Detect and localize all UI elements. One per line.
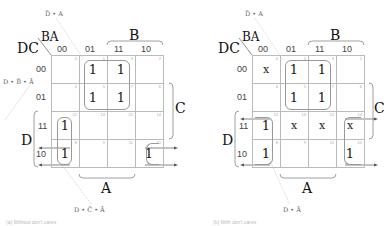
- group-loop-right-column: [344, 117, 361, 165]
- row-header: 00: [36, 64, 46, 74]
- term-bottom: D • Ā: [283, 206, 301, 214]
- kmap-cell: 11: [107, 139, 135, 167]
- var-label-B: B: [330, 27, 340, 43]
- kmap-cell: 9: [79, 139, 107, 167]
- col-header: 10: [141, 44, 151, 54]
- kmap-cell: 9: [280, 139, 308, 167]
- kmap-cell: 0: [51, 55, 79, 83]
- var-label-A: A: [101, 180, 111, 196]
- col-header: 10: [342, 44, 352, 54]
- kmap-left: D̄ • A DC BA B C D A 00 01 11 10 00 0: [0, 0, 195, 226]
- group-loop-left-column: [255, 117, 273, 165]
- col-header: 11: [315, 44, 324, 54]
- row-header: 11: [38, 121, 47, 131]
- kmap-cell: 15: [107, 111, 135, 139]
- row-header: 01: [237, 92, 247, 102]
- group-loop-center: [285, 60, 331, 110]
- kmap-cell: 11: [308, 139, 336, 167]
- col-header: 11: [114, 44, 123, 54]
- kmap-cell: 2: [135, 55, 163, 83]
- kmap-cell: 13x: [280, 111, 308, 139]
- col-vars-label: BA: [242, 30, 259, 44]
- row-header: 01: [36, 92, 46, 102]
- row-header: 10: [237, 149, 247, 159]
- kmap-cell: 15x: [308, 111, 336, 139]
- var-label-D: D: [21, 132, 32, 148]
- var-label-A: A: [302, 180, 312, 196]
- var-label-D: D: [222, 132, 233, 148]
- row-header: 00: [237, 64, 247, 74]
- col-header: 00: [57, 44, 67, 54]
- kmap-cell: 0x: [252, 55, 280, 83]
- row-header: 11: [239, 121, 248, 131]
- col-header: 01: [85, 44, 95, 54]
- col-header: 01: [286, 44, 296, 54]
- caption: (a) Without don't cares: [6, 219, 56, 225]
- kmap-cell: 6: [336, 83, 364, 111]
- group-loop-left-column: [57, 117, 72, 165]
- var-label-C: C: [374, 100, 385, 116]
- term-left: D • B̄ • Ā: [3, 78, 34, 86]
- var-label-C: C: [175, 100, 186, 116]
- group-loop-center: [84, 60, 130, 110]
- col-vars-label: BA: [41, 30, 58, 44]
- caption: (b) With don't cares: [213, 219, 256, 225]
- group-loop-right-edge: [146, 143, 159, 165]
- row-vars-label: DC: [17, 40, 39, 56]
- term-bottom: D • C̄ • Ā: [74, 206, 105, 214]
- kmap-right: D̄ • A DC BA B C D A 00 01 11 10 00 01 1…: [195, 0, 389, 226]
- var-label-B: B: [129, 27, 139, 43]
- kmap-cell: 6: [135, 83, 163, 111]
- kmap-cell: 14: [135, 111, 163, 139]
- kmap-cell: 2: [336, 55, 364, 83]
- col-header: 00: [258, 44, 268, 54]
- row-vars-label: DC: [218, 40, 240, 56]
- row-header: 10: [36, 149, 46, 159]
- kmap-cell: 4: [51, 83, 79, 111]
- kmap-cell: 13: [79, 111, 107, 139]
- kmap-cell: 4: [252, 83, 280, 111]
